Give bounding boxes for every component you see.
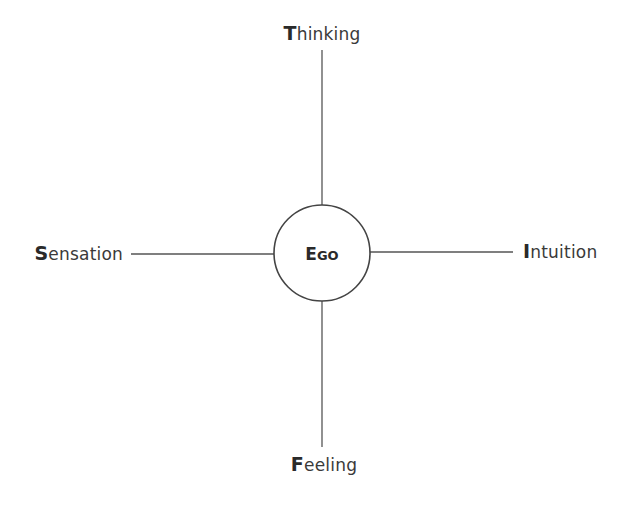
label-sensation: Sensation xyxy=(34,242,123,264)
label-sensation-rest: ensation xyxy=(48,244,123,264)
label-intuition-rest: ntuition xyxy=(530,242,597,262)
label-thinking: Thinking xyxy=(284,22,361,44)
ego-label-initial: E xyxy=(305,244,317,264)
label-feeling-initial: F xyxy=(291,453,304,475)
label-intuition-initial: I xyxy=(523,240,530,262)
ego-label-rest: GO xyxy=(317,248,339,263)
label-feeling: Feeling xyxy=(291,453,357,475)
label-thinking-initial: T xyxy=(284,22,297,44)
label-intuition: Intuition xyxy=(523,240,597,262)
label-thinking-rest: hinking xyxy=(297,24,361,44)
label-feeling-rest: eeling xyxy=(304,455,357,475)
label-sensation-initial: S xyxy=(34,242,48,264)
functions-diagram: EGO Thinking Sensation Intuition Feeling xyxy=(0,0,629,506)
